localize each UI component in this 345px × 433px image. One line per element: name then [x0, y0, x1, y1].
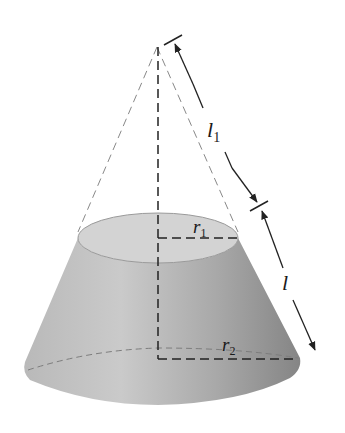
l-arrow-lower [293, 300, 315, 350]
middle-tick [250, 201, 268, 211]
frustum-body [24, 213, 300, 405]
l-arrow-upper [262, 211, 283, 268]
frustum-diagram: l1 l r1 r2 [0, 0, 345, 433]
l1-arrow-mid [193, 84, 203, 108]
right-slant-dashed [157, 47, 238, 232]
label-l: l [282, 270, 288, 295]
l1-arrow-mid2 [225, 152, 232, 168]
label-l1: l1 [207, 117, 220, 145]
top-tick [164, 35, 182, 45]
l1-arrow-lower [232, 168, 257, 202]
left-slant-dashed [78, 47, 157, 232]
l1-arrow-upper [175, 44, 193, 84]
